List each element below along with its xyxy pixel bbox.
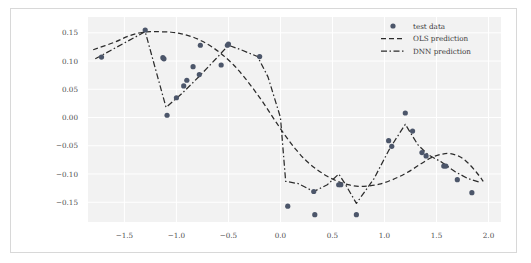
- y-tick-label: 0.10: [62, 57, 78, 66]
- data-point: [386, 138, 391, 143]
- x-tick-label: 1.5: [431, 231, 443, 240]
- data-point: [164, 113, 169, 118]
- legend-marker-icon: [390, 23, 395, 28]
- data-point: [161, 56, 166, 61]
- y-tick-label: −0.15: [56, 198, 78, 207]
- x-tick-label: −0.5: [220, 231, 238, 240]
- data-point: [443, 163, 448, 168]
- chart-figure: −1.5−1.0−0.50.00.51.01.52.00.150.100.050…: [11, 9, 518, 254]
- y-tick-label: −0.05: [56, 141, 78, 150]
- data-point: [419, 150, 424, 155]
- data-point: [311, 189, 316, 194]
- data-point: [190, 64, 195, 69]
- data-point: [198, 43, 203, 48]
- legend-label: DNN prediction: [413, 47, 471, 56]
- legend-label: OLS prediction: [413, 34, 469, 43]
- data-point: [312, 212, 317, 217]
- data-point: [338, 182, 343, 187]
- data-point: [184, 78, 189, 83]
- data-point: [389, 144, 394, 149]
- data-point: [257, 54, 262, 59]
- data-point: [354, 212, 359, 217]
- y-tick-label: −0.10: [56, 170, 78, 179]
- data-point: [197, 72, 202, 77]
- x-tick-label: 0.0: [275, 231, 287, 240]
- y-tick-label: 0.15: [62, 28, 78, 37]
- data-point: [143, 27, 148, 32]
- figure-card: −1.5−1.0−0.50.00.51.01.52.00.150.100.050…: [10, 8, 517, 253]
- data-point: [219, 62, 224, 67]
- data-point: [285, 204, 290, 209]
- data-point: [99, 55, 104, 60]
- legend-label: test data: [413, 22, 446, 31]
- x-tick-label: 0.5: [327, 231, 339, 240]
- data-point: [469, 190, 474, 195]
- x-tick-label: −1.5: [116, 231, 134, 240]
- data-point: [410, 128, 415, 133]
- y-tick-label: 0.00: [62, 113, 78, 122]
- chart-svg: −1.5−1.0−0.50.00.51.01.52.00.150.100.050…: [11, 9, 518, 254]
- y-tick-label: 0.05: [62, 85, 78, 94]
- data-point: [455, 177, 460, 182]
- data-point: [174, 95, 179, 100]
- x-tick-label: 1.0: [379, 231, 391, 240]
- data-point: [226, 42, 231, 47]
- data-point: [181, 83, 186, 88]
- data-point: [424, 153, 429, 158]
- x-tick-label: 2.0: [483, 231, 495, 240]
- x-tick-label: −1.0: [168, 231, 186, 240]
- data-point: [403, 110, 408, 115]
